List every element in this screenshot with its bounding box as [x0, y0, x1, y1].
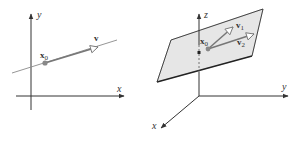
vector-v-label: v: [94, 33, 99, 43]
right-y-axis-label: y: [281, 81, 287, 92]
left-y-axis-label: y: [36, 9, 42, 20]
vector-v: [45, 47, 98, 63]
right-panel: z y x x0 v1 v2: [151, 9, 288, 131]
right-z-axis-label: z: [203, 9, 208, 20]
figure-canvas: y x x0 v z y x: [0, 0, 300, 142]
right-x-axis: [161, 96, 199, 128]
right-x-axis-label: x: [151, 120, 157, 131]
point-x0-label: x0: [40, 50, 49, 62]
z-axis-plane-intersection: [198, 51, 201, 54]
plane: [157, 9, 263, 82]
left-x-axis-label: x: [116, 83, 122, 94]
left-panel: y x x0 v: [12, 9, 124, 110]
